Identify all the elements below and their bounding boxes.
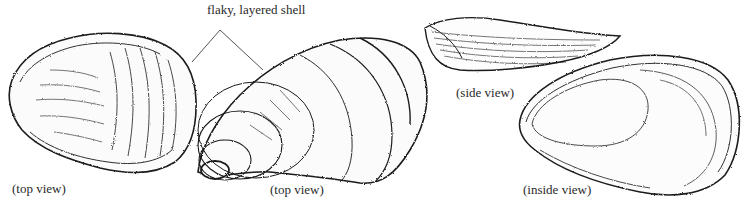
shell-drawings [0, 0, 748, 207]
oyster-top-view-center [198, 38, 427, 183]
callout-label-flaky-layered-shell: flaky, layered shell [207, 3, 305, 16]
oyster-inside-view [520, 55, 740, 195]
callout-leader-lines [192, 30, 263, 70]
label-inside-view: (inside view) [523, 183, 591, 196]
oyster-top-view-left [9, 33, 196, 172]
label-side-view: (side view) [456, 86, 514, 99]
label-top-view-left: (top view) [12, 182, 66, 195]
label-top-view-center: (top view) [270, 183, 324, 196]
oyster-side-view [425, 18, 620, 71]
oyster-illustration-figure: flaky, layered shell (top view) (top vie… [0, 0, 748, 207]
